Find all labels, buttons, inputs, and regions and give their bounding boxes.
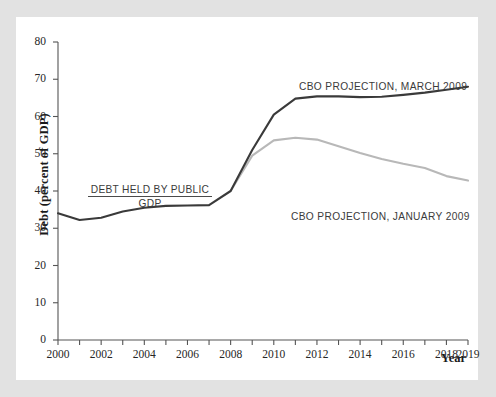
x-axis-tick-label: 2004: [124, 348, 164, 360]
annotation-january-projection: CBO PROJECTION, JANUARY 2009: [291, 211, 470, 222]
figure-page: Debt (percent of GDP) Year 0102030405060…: [0, 0, 496, 397]
y-axis-ticks: [53, 42, 58, 340]
x-axis-ticks: [58, 340, 468, 345]
x-axis-tick-label: 2016: [383, 348, 423, 360]
x-axis-tick-label: 2012: [297, 348, 337, 360]
y-axis-tick-label: 30: [20, 221, 46, 233]
y-axis-tick-label: 70: [20, 72, 46, 84]
y-axis-tick-label: 50: [20, 147, 46, 159]
annotation-march-projection: CBO PROJECTION, MARCH 2009: [299, 81, 467, 92]
y-axis-tick-label: 0: [20, 333, 46, 345]
y-axis-tick-label: 10: [20, 296, 46, 308]
debt-percent-of-gdp-line-chart: [16, 17, 478, 380]
x-axis-tick-label: 2008: [211, 348, 251, 360]
y-axis-tick-label: 20: [20, 259, 46, 271]
x-axis-tick-label: 2002: [81, 348, 121, 360]
series-ratio-label: DEBT HELD BY PUBLIC GDP: [88, 184, 212, 209]
ratio-denominator: GDP: [88, 197, 212, 209]
x-axis-tick-label: 2000: [38, 348, 78, 360]
ratio-numerator: DEBT HELD BY PUBLIC: [88, 184, 212, 197]
y-axis-tick-label: 40: [20, 184, 46, 196]
figure-card: Debt (percent of GDP) Year 0102030405060…: [16, 17, 478, 380]
y-axis-title: Debt (percent of GDP): [37, 75, 52, 275]
x-axis-tick-label: 2019: [448, 348, 488, 360]
series-line-cbo-projection-march-2009: [231, 138, 468, 191]
y-axis-tick-label: 60: [20, 110, 46, 122]
x-axis-tick-label: 2006: [167, 348, 207, 360]
x-axis-tick-label: 2014: [340, 348, 380, 360]
y-axis-tick-label: 80: [20, 35, 46, 47]
x-axis-tick-label: 2010: [254, 348, 294, 360]
